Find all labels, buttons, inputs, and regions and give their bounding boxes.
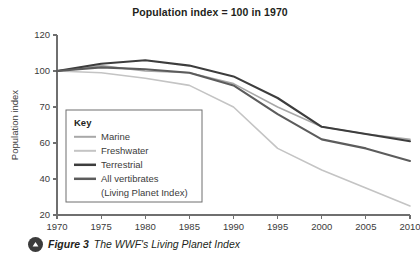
legend-title: Key (74, 117, 92, 128)
x-tick-label: 1995 (267, 221, 288, 232)
legend-label: All vertibrates (101, 173, 159, 184)
legend-label: Freshwater (101, 145, 149, 156)
y-tick-label: 20 (39, 209, 50, 220)
y-axis: 20406070100120Population index (9, 29, 57, 220)
x-tick-label: 1980 (135, 221, 156, 232)
legend-label: Marine (101, 131, 130, 142)
figure-caption: Figure 3 The WWF's Living Planet Index (28, 233, 418, 255)
figure-living-planet-index: Population index = 100 in 1970 204060701… (0, 0, 420, 258)
triangle-up-icon (28, 237, 43, 252)
legend-label: Terrestrial (101, 159, 143, 170)
y-axis-title: Population index (9, 90, 20, 160)
x-tick-label: 2010 (399, 221, 420, 232)
x-tick-label: 1990 (223, 221, 244, 232)
x-tick-label: 2005 (355, 221, 376, 232)
figure-caption-text: The WWF's Living Planet Index (94, 238, 240, 250)
x-tick-label: 1975 (91, 221, 112, 232)
y-tick-label: 70 (39, 101, 50, 112)
y-tick-label: 120 (34, 29, 50, 40)
y-tick-label: 40 (39, 173, 50, 184)
chart-legend: KeyMarineFreshwaterTerrestrialAll vertib… (66, 110, 202, 202)
x-tick-label: 1985 (179, 221, 200, 232)
figure-number: Figure 3 (48, 238, 89, 250)
x-tick-label: 1970 (46, 221, 67, 232)
x-axis: 197019751980198519901995200020052010 (46, 215, 420, 232)
y-tick-label: 100 (34, 65, 50, 76)
legend-label-continued: (Living Planet Index) (101, 187, 188, 198)
line-chart: 20406070100120Population index 197019751… (0, 0, 420, 232)
y-tick-label: 60 (39, 137, 50, 148)
x-tick-label: 2000 (311, 221, 332, 232)
